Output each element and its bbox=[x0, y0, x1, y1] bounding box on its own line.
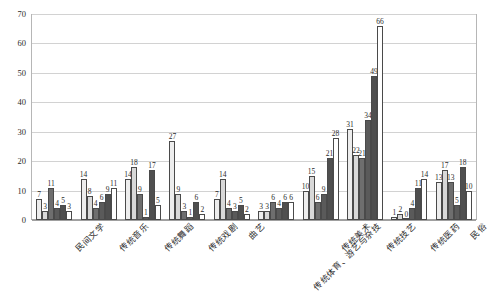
x-axis-category-label: 传统音乐 bbox=[119, 222, 150, 253]
bar-value-label: 3 bbox=[67, 203, 71, 211]
bar-value-label: 8 bbox=[88, 188, 92, 196]
bar-value-label: 10 bbox=[465, 183, 473, 191]
bar-value-label: 4 bbox=[411, 200, 415, 208]
bar-value-label: 6 bbox=[100, 194, 104, 202]
bar-value-label: 9 bbox=[106, 186, 110, 194]
bar-group: 312221344966 bbox=[343, 14, 387, 220]
bar bbox=[421, 179, 427, 220]
x-axis-category-label: 传统医药 bbox=[430, 222, 461, 253]
bar-item: 14 bbox=[421, 14, 427, 220]
bar-value-label: 6 bbox=[271, 194, 275, 202]
bar-value-label: 3 bbox=[233, 203, 237, 211]
bar-value-label: 66 bbox=[376, 18, 384, 26]
bar-value-label: 9 bbox=[322, 186, 326, 194]
y-axis-tick-label: 60 bbox=[2, 39, 26, 48]
bar-group: 12041114 bbox=[387, 14, 431, 220]
bars-layer: 7311453148469111418911752793162714435233… bbox=[32, 14, 476, 220]
bar-value-label: 4 bbox=[94, 200, 98, 208]
bar-value-label: 2 bbox=[245, 206, 249, 214]
bar-group: 14846911 bbox=[76, 14, 120, 220]
bar bbox=[466, 191, 472, 220]
bar-value-label: 1 bbox=[189, 209, 193, 217]
bar-value-label: 9 bbox=[177, 186, 181, 194]
bar-value-label: 7 bbox=[215, 191, 219, 199]
bar-item: 3 bbox=[66, 14, 72, 220]
x-axis-category-label: 民俗 bbox=[469, 222, 488, 241]
x-axis-category-label: 民间文学 bbox=[74, 222, 105, 253]
y-axis-tick-label: 20 bbox=[2, 157, 26, 166]
bar-value-label: 5 bbox=[61, 197, 65, 205]
bar-value-label: 2 bbox=[399, 206, 403, 214]
bar-value-label: 4 bbox=[227, 200, 231, 208]
bar-item: 2 bbox=[199, 14, 205, 220]
bar-item: 11 bbox=[111, 14, 117, 220]
bar-group: 7311453 bbox=[32, 14, 76, 220]
bar-value-label: 6 bbox=[195, 194, 199, 202]
bar-item: 5 bbox=[155, 14, 161, 220]
x-axis-category-label: 曲艺 bbox=[247, 222, 266, 241]
y-axis-tick-label: 10 bbox=[2, 187, 26, 196]
bar-group: 7144352 bbox=[210, 14, 254, 220]
bar-value-label: 6 bbox=[289, 194, 293, 202]
bar-group: 141891175 bbox=[121, 14, 165, 220]
bar-group: 336466 bbox=[254, 14, 298, 220]
bar-value-label: 6 bbox=[316, 194, 320, 202]
y-axis-tick-label: 30 bbox=[2, 128, 26, 137]
bar-value-label: 4 bbox=[277, 200, 281, 208]
x-axis-category-label: 传统舞蹈 bbox=[163, 222, 194, 253]
bar bbox=[111, 188, 117, 220]
y-axis-tick-label: 40 bbox=[2, 98, 26, 107]
bar-value-label: 0 bbox=[405, 211, 409, 219]
bar bbox=[66, 211, 72, 220]
bar bbox=[377, 26, 383, 220]
bar-value-label: 5 bbox=[455, 197, 459, 205]
bar-value-label: 9 bbox=[138, 186, 142, 194]
bar-item: 2 bbox=[244, 14, 250, 220]
y-axis-tick-label: 70 bbox=[2, 10, 26, 19]
bar-value-label: 1 bbox=[393, 209, 397, 217]
bar-value-label: 3 bbox=[259, 203, 263, 211]
x-axis-category-label: 传统技艺 bbox=[385, 222, 416, 253]
bar-value-label: 5 bbox=[156, 197, 160, 205]
x-axis-category-label: 传统戏剧 bbox=[208, 222, 239, 253]
bar-value-label: 5 bbox=[239, 197, 243, 205]
bar bbox=[288, 202, 294, 220]
bar bbox=[333, 138, 339, 220]
bar-group: 1015692128 bbox=[298, 14, 342, 220]
bar-group: 13171351810 bbox=[432, 14, 476, 220]
bar-value-label: 11 bbox=[110, 180, 117, 188]
x-axis-category-labels: 民间文学传统音乐传统舞蹈传统戏剧曲艺传统体育、游艺与杂技传统美术传统技艺传统医药… bbox=[32, 222, 476, 301]
x-axis-category-label: 传统体育、游艺与杂技 bbox=[312, 222, 382, 292]
bar bbox=[199, 214, 205, 220]
bar bbox=[155, 205, 161, 220]
bar-item: 10 bbox=[466, 14, 472, 220]
bar-value-label: 2 bbox=[201, 206, 205, 214]
bar-value-label: 4 bbox=[55, 200, 59, 208]
bar-value-label: 3 bbox=[265, 203, 269, 211]
y-axis-tick-label: 50 bbox=[2, 69, 26, 78]
bar-item: 6 bbox=[288, 14, 294, 220]
bar-value-label: 1 bbox=[144, 209, 148, 217]
bar bbox=[244, 214, 250, 220]
bar-value-label: 7 bbox=[37, 191, 41, 199]
y-axis-tick-label: 0 bbox=[2, 216, 26, 225]
bar-value-label: 6 bbox=[283, 194, 287, 202]
bar-group: 2793162 bbox=[165, 14, 209, 220]
bar-value-label: 28 bbox=[332, 130, 340, 138]
bar-value-label: 14 bbox=[421, 171, 429, 179]
bar-value-label: 3 bbox=[183, 203, 187, 211]
bar-item: 28 bbox=[333, 14, 339, 220]
bar-value-label: 3 bbox=[43, 203, 47, 211]
bar-item: 66 bbox=[377, 14, 383, 220]
